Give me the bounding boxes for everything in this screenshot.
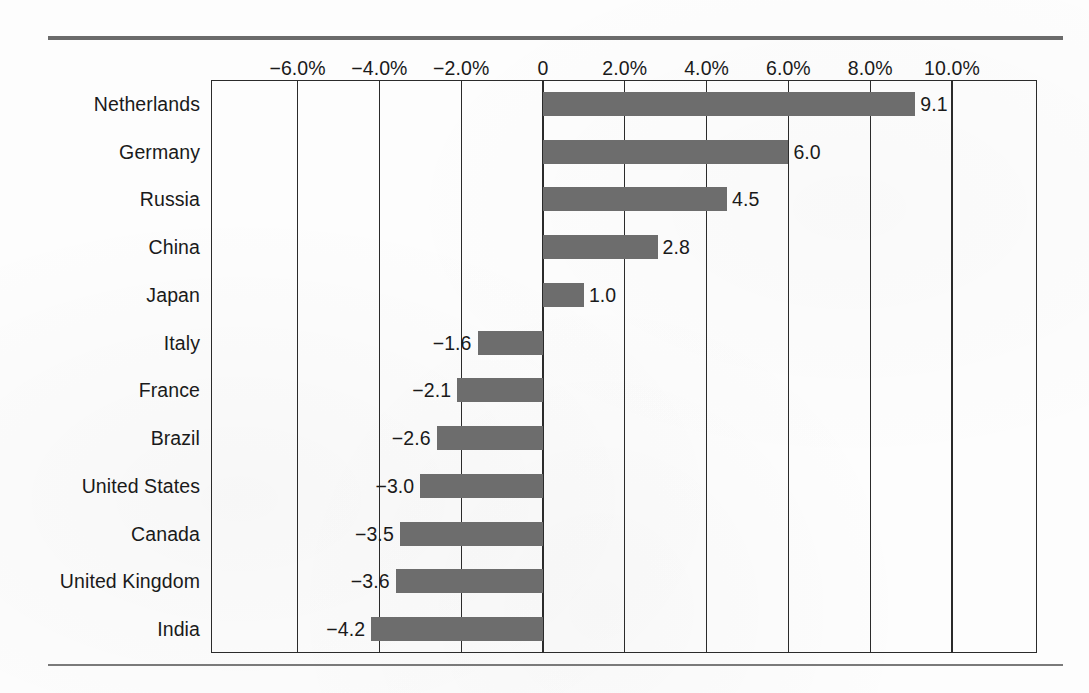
bar-canada <box>400 522 543 546</box>
category-label-united-kingdom: United Kingdom <box>60 570 200 593</box>
category-label-japan: Japan <box>146 283 200 306</box>
bar-brazil <box>437 426 543 450</box>
x-tick-label: 4.0% <box>684 57 729 80</box>
category-label-canada: Canada <box>131 522 200 545</box>
bar-value-china: 2.8 <box>663 236 690 259</box>
x-tick-label: 10.0% <box>924 57 980 80</box>
bar-value-italy: −1.6 <box>433 331 472 354</box>
bar-united-states <box>420 474 543 498</box>
x-tick-label: 0 <box>538 57 549 80</box>
bar-india <box>371 617 543 641</box>
bar-value-germany: 6.0 <box>793 140 820 163</box>
x-tick-label: −4.0% <box>351 57 407 80</box>
bar-chart: −6.0%−4.0%−2.0%02.0%4.0%6.0%8.0%10.0% Ne… <box>0 0 1089 693</box>
bar-value-united-kingdom: −3.6 <box>351 570 390 593</box>
category-label-brazil: Brazil <box>151 427 200 450</box>
bar-united-kingdom <box>396 569 543 593</box>
plot-frame <box>211 80 1037 653</box>
category-label-russia: Russia <box>140 188 200 211</box>
category-label-india: India <box>157 618 200 641</box>
bar-value-canada: −3.5 <box>355 522 394 545</box>
bar-value-japan: 1.0 <box>589 283 616 306</box>
bar-italy <box>478 331 543 355</box>
bar-value-brazil: −2.6 <box>392 427 431 450</box>
bar-japan <box>543 283 584 307</box>
bar-value-france: −2.1 <box>412 379 451 402</box>
bar-value-united-states: −3.0 <box>375 474 414 497</box>
x-tick-label: 2.0% <box>602 57 647 80</box>
x-tick-label: 8.0% <box>848 57 893 80</box>
x-tick-label: 6.0% <box>766 57 811 80</box>
bar-france <box>457 378 543 402</box>
category-label-france: France <box>139 379 200 402</box>
category-label-italy: Italy <box>164 331 200 354</box>
bar-value-russia: 4.5 <box>732 188 759 211</box>
bar-russia <box>543 187 727 211</box>
category-label-netherlands: Netherlands <box>94 92 200 115</box>
category-label-united-states: United States <box>82 474 200 497</box>
bar-china <box>543 235 658 259</box>
x-tick-label: −6.0% <box>269 57 325 80</box>
category-label-china: China <box>149 236 200 259</box>
bar-germany <box>543 140 788 164</box>
x-tick-label: −2.0% <box>433 57 489 80</box>
bar-value-india: −4.2 <box>326 618 365 641</box>
bar-netherlands <box>543 92 915 116</box>
category-label-germany: Germany <box>119 140 200 163</box>
bar-value-netherlands: 9.1 <box>920 92 947 115</box>
